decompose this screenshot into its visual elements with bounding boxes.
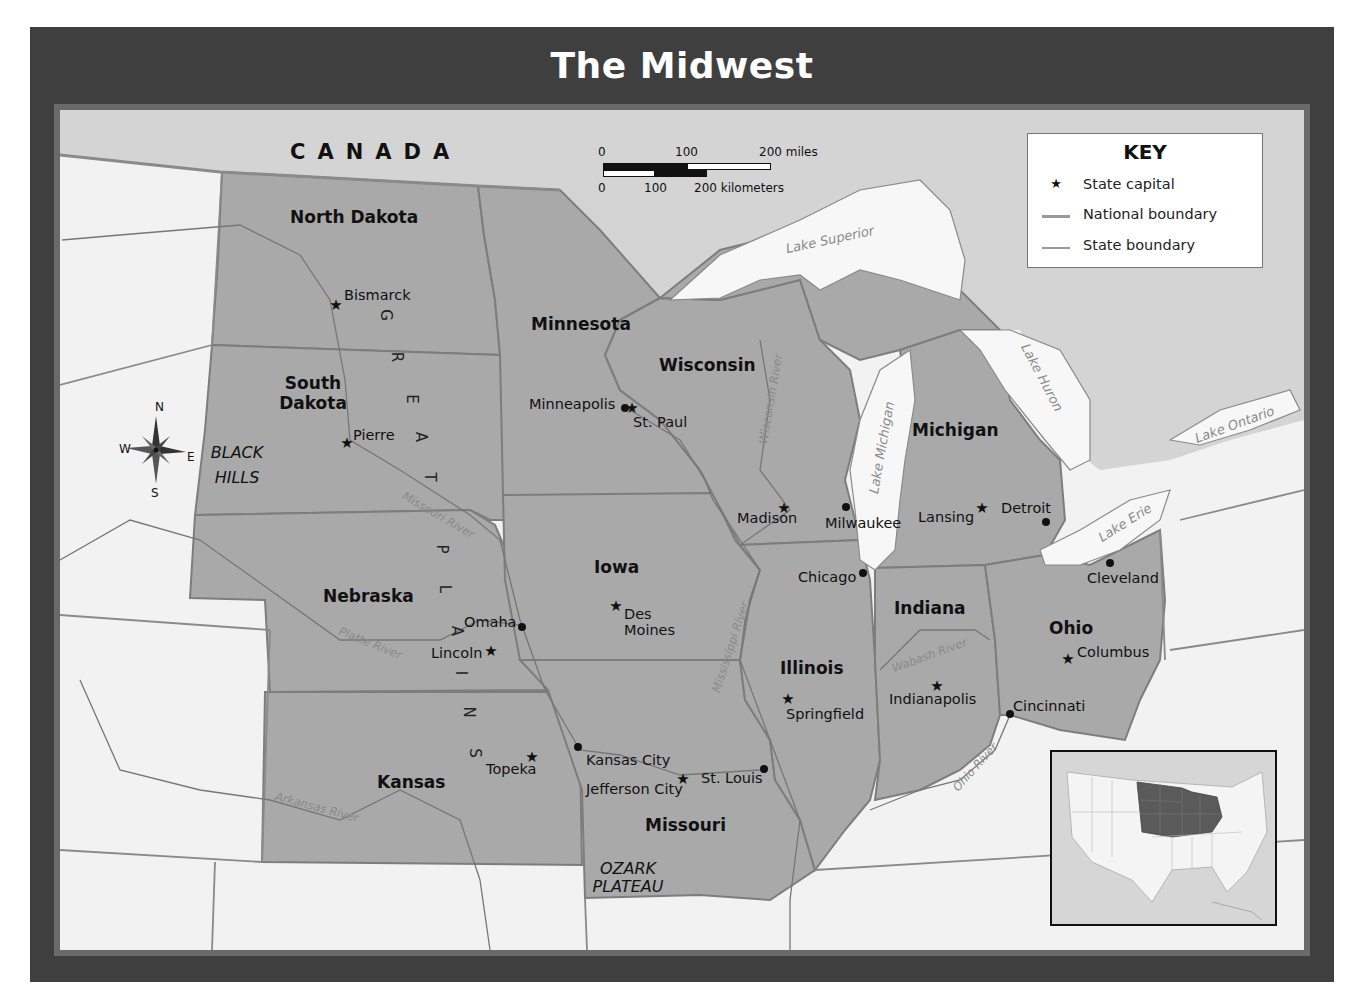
compass-star-icon bbox=[125, 414, 187, 486]
scale-miles-100: 100 bbox=[675, 145, 698, 159]
key-row-state: State boundary bbox=[1028, 237, 1262, 257]
state-boundary-line-icon bbox=[1042, 237, 1070, 257]
map-title: The Midwest bbox=[30, 45, 1334, 86]
key-row-national: National boundary bbox=[1028, 206, 1262, 226]
scale-km-white bbox=[603, 170, 655, 177]
star-des-moines: ★ bbox=[609, 597, 622, 615]
label-jefferson-city: Jefferson City bbox=[586, 781, 683, 797]
scale-miles-black bbox=[603, 163, 687, 170]
label-iowa: Iowa bbox=[594, 557, 639, 577]
label-st-louis: St. Louis bbox=[701, 770, 763, 786]
label-missouri: Missouri bbox=[645, 815, 726, 835]
star-lincoln: ★ bbox=[484, 642, 497, 660]
plains-letter-a: A bbox=[412, 432, 430, 442]
label-st-paul: St. Paul bbox=[633, 414, 687, 430]
label-canada: CANADA bbox=[290, 140, 461, 164]
scale-km-200: 200 kilometers bbox=[694, 181, 784, 195]
compass-n: N bbox=[155, 400, 164, 414]
label-north-dakota: North Dakota bbox=[290, 207, 418, 227]
label-minneapolis: Minneapolis bbox=[529, 396, 615, 412]
plains-letter-l: L bbox=[436, 585, 454, 593]
key-label-capital: State capital bbox=[1083, 176, 1175, 192]
map-key: KEY ★ State capital National boundary St… bbox=[1027, 133, 1263, 268]
dot-omaha bbox=[518, 623, 526, 631]
compass-e: E bbox=[187, 450, 195, 464]
label-des-moines: Des Moines bbox=[624, 606, 684, 638]
label-madison: Madison bbox=[737, 510, 797, 526]
label-wisconsin: Wisconsin bbox=[659, 355, 756, 375]
compass-s: S bbox=[151, 486, 159, 500]
plains-letter-p: P bbox=[433, 544, 451, 553]
scale-km-100: 100 bbox=[644, 181, 667, 195]
label-columbus: Columbus bbox=[1077, 644, 1149, 660]
label-lansing: Lansing bbox=[918, 509, 974, 525]
label-lincoln: Lincoln bbox=[431, 645, 482, 661]
key-label-state: State boundary bbox=[1083, 237, 1195, 253]
plains-letter-e: E bbox=[403, 394, 421, 403]
label-kansas: Kansas bbox=[377, 772, 445, 792]
label-indianapolis: Indianapolis bbox=[889, 691, 976, 707]
label-springfield: Springfield bbox=[786, 706, 864, 722]
label-illinois: Illinois bbox=[780, 658, 844, 678]
north-dakota-shape bbox=[212, 172, 500, 355]
dot-milwaukee bbox=[842, 503, 850, 511]
plains-letter-s: S bbox=[466, 748, 484, 758]
plains-letter-a2: A bbox=[448, 626, 466, 636]
dot-cleveland bbox=[1106, 559, 1114, 567]
scale-miles-200: 200 miles bbox=[759, 145, 818, 159]
star-icon: ★ bbox=[1042, 176, 1070, 196]
scale-miles-white bbox=[687, 163, 771, 170]
dot-detroit bbox=[1042, 518, 1050, 526]
plains-letter-r: R bbox=[388, 352, 406, 362]
label-detroit: Detroit bbox=[1001, 500, 1051, 516]
label-cleveland: Cleveland bbox=[1087, 570, 1159, 586]
key-label-national: National boundary bbox=[1083, 206, 1217, 222]
inset-us-map bbox=[1050, 750, 1277, 926]
star-lansing: ★ bbox=[975, 499, 988, 517]
key-row-capital: ★ State capital bbox=[1028, 176, 1262, 196]
scale-miles-0: 0 bbox=[598, 145, 606, 159]
label-black-hills: BLACK HILLS bbox=[207, 440, 267, 490]
label-milwaukee: Milwaukee bbox=[825, 515, 901, 531]
label-cincinnati: Cincinnati bbox=[1013, 698, 1085, 714]
star-columbus: ★ bbox=[1061, 650, 1074, 668]
scale-km-0: 0 bbox=[598, 181, 606, 195]
label-nebraska: Nebraska bbox=[323, 586, 414, 606]
scale-bar: 0 100 200 miles 0 100 200 kilometers bbox=[595, 143, 835, 203]
label-minnesota: Minnesota bbox=[531, 314, 631, 334]
star-pierre: ★ bbox=[340, 434, 353, 452]
label-kansas-city: Kansas City bbox=[586, 752, 670, 768]
dot-chicago bbox=[859, 569, 867, 577]
compass-rose: N W E S bbox=[115, 400, 205, 500]
plains-letter-i: I bbox=[452, 671, 470, 675]
label-bismarck: Bismarck bbox=[344, 287, 411, 303]
plains-letter-n: N bbox=[460, 706, 478, 717]
label-ohio: Ohio bbox=[1049, 618, 1093, 638]
label-michigan: Michigan bbox=[912, 420, 999, 440]
plains-letter-g: G bbox=[377, 309, 395, 321]
label-ozark-plateau: OZARK PLATEAU bbox=[588, 860, 668, 896]
key-title: KEY bbox=[1028, 140, 1262, 164]
label-south-dakota: South Dakota bbox=[278, 373, 348, 413]
label-omaha: Omaha bbox=[464, 614, 517, 630]
scale-km-black bbox=[655, 170, 707, 177]
national-boundary-line-icon bbox=[1042, 206, 1070, 226]
label-pierre: Pierre bbox=[353, 427, 395, 443]
dot-kansas-city bbox=[574, 743, 582, 751]
plains-letter-t: T bbox=[421, 472, 439, 481]
label-chicago: Chicago bbox=[798, 569, 856, 585]
label-topeka: Topeka bbox=[486, 761, 536, 777]
label-indiana: Indiana bbox=[894, 598, 965, 618]
inset-map-canvas bbox=[1052, 752, 1275, 924]
star-bismarck: ★ bbox=[329, 296, 342, 314]
